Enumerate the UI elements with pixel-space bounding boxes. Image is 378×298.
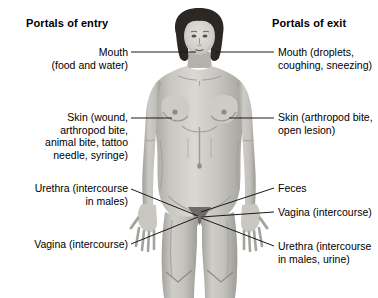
label-exit-skin: Skin (arthropod bite, open lesion) [278, 111, 378, 136]
leg-left [162, 212, 198, 298]
label-entry-vagina-line1: Vagina (intercourse) [0, 238, 128, 251]
label-exit-skin-line1: Skin (arthropod bite, [278, 111, 378, 124]
label-entry-skin-line3: animal bite, tattoo [0, 136, 128, 149]
label-entry-mouth: Mouth (food and water) [0, 46, 128, 71]
label-entry-urethra-line2: in males) [0, 195, 128, 208]
label-exit-mouth-line2: coughing, sneezing) [278, 59, 378, 72]
heading-portals-of-entry: Portals of entry [26, 17, 108, 29]
label-exit-skin-line2: open lesion) [278, 124, 378, 137]
label-entry-mouth-line1: Mouth [0, 46, 128, 59]
label-exit-vagina-line1: Vagina (intercourse) [278, 206, 378, 219]
label-exit-vagina: Vagina (intercourse) [278, 206, 378, 219]
label-entry-urethra: Urethra (intercourse in males) [0, 182, 128, 207]
label-exit-feces: Feces [278, 182, 378, 195]
label-exit-feces-line1: Feces [278, 182, 378, 195]
hand-left [131, 204, 157, 251]
label-exit-urethra: Urethra (intercourse in males, urine) [278, 240, 378, 265]
eye-left [192, 35, 197, 38]
hand-right [241, 204, 267, 251]
portals-of-entry-and-exit-diagram: Portals of entry Portals of exit Mouth (… [0, 0, 378, 298]
label-entry-skin-line1: Skin (wound, [0, 111, 128, 124]
label-entry-skin-line2: arthropod bite, [0, 124, 128, 137]
nipple-right [221, 109, 226, 114]
nipple-left [172, 109, 177, 114]
label-entry-skin-line4: needle, syringe) [0, 149, 128, 162]
label-entry-mouth-line2: (food and water) [0, 59, 128, 72]
heading-portals-of-exit: Portals of exit [272, 17, 346, 29]
label-exit-mouth: Mouth (droplets, coughing, sneezing) [278, 46, 378, 71]
label-exit-urethra-line1: Urethra (intercourse [278, 240, 378, 253]
label-entry-urethra-line1: Urethra (intercourse [0, 182, 128, 195]
eye-right [203, 35, 208, 38]
label-entry-vagina: Vagina (intercourse) [0, 238, 128, 251]
label-exit-mouth-line1: Mouth (droplets, [278, 46, 378, 59]
label-exit-urethra-line2: in males, urine) [278, 253, 378, 266]
navel [197, 163, 201, 169]
label-entry-skin: Skin (wound, arthropod bite, animal bite… [0, 111, 128, 161]
